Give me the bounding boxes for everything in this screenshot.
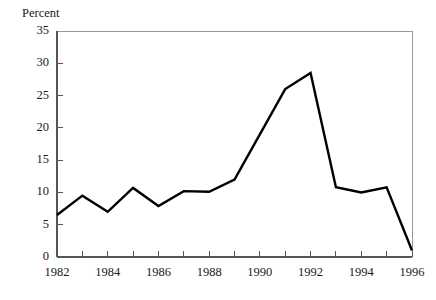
y-tick-label: 30 <box>21 56 49 69</box>
plot-frame <box>57 31 412 257</box>
y-tick-label: 5 <box>21 218 49 231</box>
x-tick-label: 1990 <box>232 266 288 279</box>
x-tick-label: 1992 <box>283 266 339 279</box>
x-tick-label: 1982 <box>29 266 85 279</box>
x-tick-label: 1986 <box>130 266 186 279</box>
x-tick-label: 1994 <box>333 266 389 279</box>
x-tick-label: 1984 <box>80 266 136 279</box>
x-tick-label: 1988 <box>181 266 237 279</box>
x-tick-label: 1996 <box>384 266 436 279</box>
plot-area <box>0 0 436 300</box>
y-tick-label: 20 <box>21 121 49 134</box>
y-tick-label: 10 <box>21 185 49 198</box>
y-tick-label: 25 <box>21 89 49 102</box>
data-line <box>57 73 412 251</box>
data-line-series <box>57 73 412 251</box>
y-tick-label: 0 <box>21 250 49 263</box>
chart-figure: Percent 05101520253035 19821984198619881… <box>0 0 436 300</box>
y-tick-label: 15 <box>21 153 49 166</box>
axis-ticks <box>57 63 412 257</box>
y-tick-label: 35 <box>21 24 49 37</box>
